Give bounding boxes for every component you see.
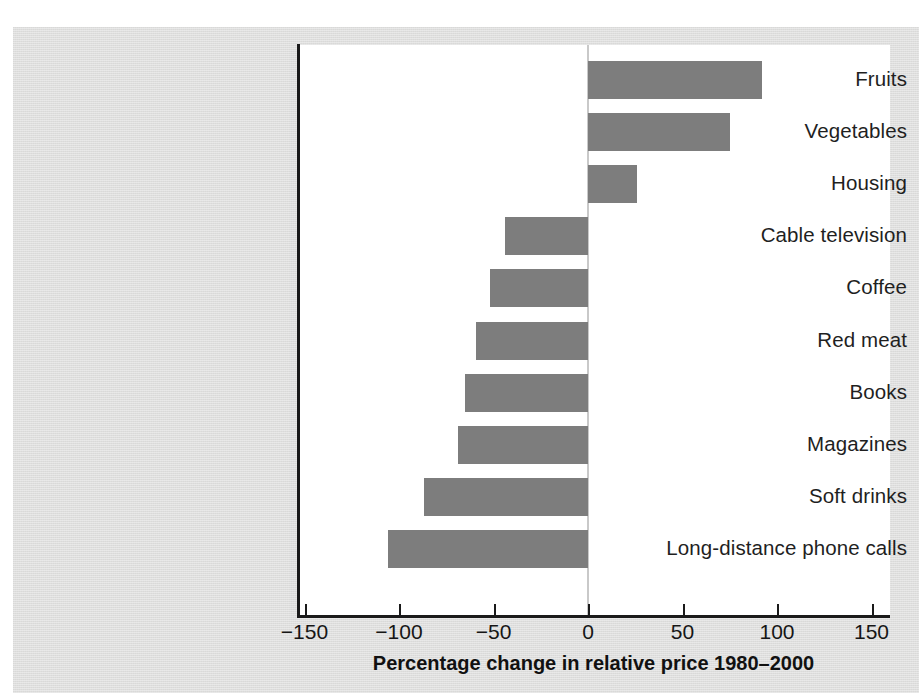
bar xyxy=(388,530,588,568)
bar xyxy=(476,322,588,360)
category-label: Fruits xyxy=(629,67,919,91)
category-axis-spine xyxy=(297,44,300,618)
bar xyxy=(465,374,588,412)
x-axis-title: Percentage change in relative price 1980… xyxy=(297,652,890,675)
category-label: Vegetables xyxy=(629,119,919,143)
category-label: Coffee xyxy=(629,275,919,299)
category-label: Soft drinks xyxy=(629,484,919,508)
x-tick-label: 100 xyxy=(759,620,794,644)
bar xyxy=(424,478,588,516)
category-label: Magazines xyxy=(629,432,919,456)
bar xyxy=(490,269,588,307)
bar xyxy=(505,217,588,255)
category-label: Long-distance phone calls xyxy=(629,536,919,560)
x-tick-label: −100 xyxy=(375,620,422,644)
category-label: Books xyxy=(629,380,919,404)
category-label: Cable television xyxy=(629,223,919,247)
bar xyxy=(458,426,588,464)
category-label: Red meat xyxy=(629,328,919,352)
x-tick-label: 0 xyxy=(582,620,594,644)
x-tick-label: 150 xyxy=(854,620,889,644)
x-tick-label: −150 xyxy=(281,620,328,644)
x-tick-label: 50 xyxy=(671,620,694,644)
x-tick-label: −50 xyxy=(476,620,512,644)
chart-figure: FruitsVegetablesHousingCable televisionC… xyxy=(0,0,919,700)
value-axis-spine xyxy=(297,615,890,618)
category-label: Housing xyxy=(629,171,919,195)
